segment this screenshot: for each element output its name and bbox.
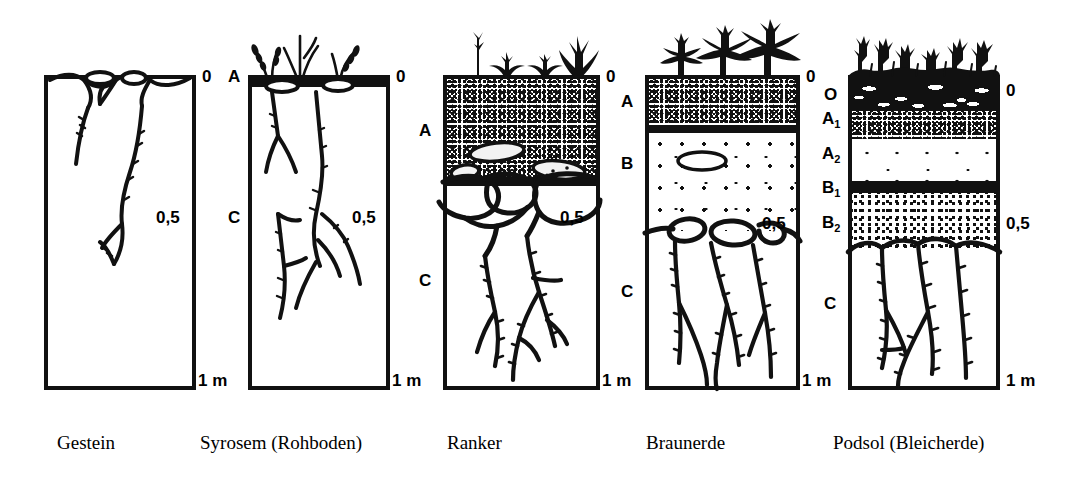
- horizon-podsol-B1: [852, 181, 996, 193]
- horizon-label-podsol-A1-letter: A: [822, 109, 834, 128]
- horizon-label-podsol-O: O: [824, 86, 837, 103]
- horizon-label-podsol-C: C: [824, 295, 836, 312]
- profile-podsol: O A1 A2 B1 B2 C 0 0,5 1 m Podsol (Bleich…: [0, 0, 1081, 483]
- horizon-label-podsol-B2: B2: [822, 214, 840, 237]
- horizon-label-podsol-A2-letter: A: [822, 144, 834, 163]
- soil-profile-figure: 0 0,5 1 m Gestein: [0, 0, 1081, 483]
- horizon-label-podsol-B2-sub: 2: [834, 222, 840, 234]
- horizon-label-podsol-A1-sub: 1: [834, 118, 840, 130]
- scale-label-top-podsol: 0: [1006, 82, 1015, 99]
- horizon-label-podsol-A1: A1: [822, 110, 840, 133]
- horizon-label-podsol-B1: B1: [822, 179, 840, 202]
- horizon-podsol-A2: [852, 139, 996, 181]
- horizon-label-podsol-A2: A2: [822, 145, 840, 168]
- horizon-podsol-O: [852, 79, 996, 111]
- horizon-label-podsol-B1-letter: B: [822, 178, 834, 197]
- scale-label-bottom-podsol: 1 m: [1006, 372, 1035, 389]
- roots-podsol: [848, 238, 1000, 393]
- horizon-podsol-A1: [852, 111, 996, 139]
- horizon-label-podsol-B1-sub: 1: [834, 187, 840, 199]
- caption-podsol: Podsol (Bleicherde): [833, 432, 984, 454]
- vegetation-podsol: [848, 28, 1000, 78]
- horizon-label-podsol-A2-sub: 2: [834, 153, 840, 165]
- horizon-label-podsol-B2-letter: B: [822, 213, 834, 232]
- scale-label-mid-podsol: 0,5: [1006, 215, 1030, 232]
